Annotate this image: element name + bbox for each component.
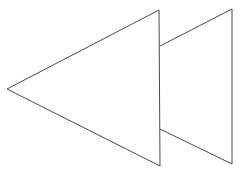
rewind-diagram: [0, 0, 242, 174]
front-triangle: [7, 10, 160, 166]
back-triangle: [160, 9, 232, 164]
rewind-icon: [0, 0, 242, 174]
